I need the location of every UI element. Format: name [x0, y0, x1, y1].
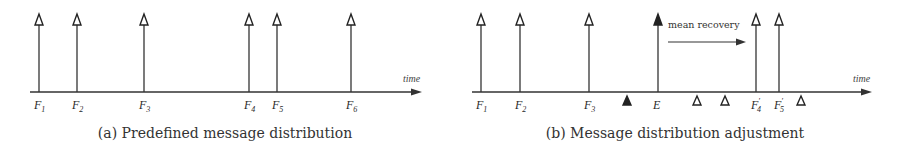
- axis-label-time: time: [403, 73, 421, 84]
- hollow-arrowhead-icon: [477, 14, 485, 25]
- message-label: E: [652, 98, 661, 112]
- filled-triangle-marker-icon: [623, 96, 631, 105]
- axis-arrowhead-icon: [861, 89, 872, 96]
- message-label: F2: [71, 98, 83, 114]
- panel-predefined-distribution: time F1F2F3F4F5F6 (a) Predefined message…: [30, 14, 422, 141]
- message-arrow: F3: [583, 14, 595, 114]
- message-label: F3: [583, 98, 595, 114]
- message-arrow: F′4: [750, 14, 761, 114]
- hollow-arrowhead-icon: [775, 14, 783, 25]
- message-label: F′4: [750, 97, 761, 114]
- message-label: F6: [345, 98, 357, 114]
- hollow-triangle-marker-icon: [693, 96, 701, 105]
- hollow-triangle-marker-icon: [797, 96, 805, 105]
- hollow-arrowhead-icon: [516, 14, 524, 25]
- message-arrow: F5: [271, 14, 283, 114]
- message-arrow: F6: [345, 14, 357, 114]
- message-arrow: F1: [475, 14, 487, 114]
- message-label: F1: [475, 98, 487, 114]
- message-distribution-figure: time F1F2F3F4F5F6 (a) Predefined message…: [0, 0, 902, 153]
- hollow-arrowhead-icon: [273, 14, 281, 25]
- hollow-arrowhead-icon: [35, 14, 43, 25]
- message-arrow: F2: [514, 14, 526, 114]
- axis-arrowhead-icon: [411, 89, 422, 96]
- axis-label-time: time: [853, 73, 871, 84]
- message-arrow: F1: [33, 14, 45, 114]
- hollow-arrowhead-icon: [752, 14, 760, 25]
- message-label: F4: [243, 98, 255, 114]
- hollow-arrowhead-icon: [585, 14, 593, 25]
- hollow-triangle-marker-icon: [721, 96, 729, 105]
- message-label: F3: [138, 98, 150, 114]
- arrow-right-icon: [736, 39, 746, 46]
- message-arrow: F2: [71, 14, 83, 114]
- message-label: F2: [514, 98, 526, 114]
- message-arrow: E: [652, 14, 662, 112]
- message-label: F1: [33, 98, 45, 114]
- message-arrow: F′5: [773, 14, 784, 114]
- caption-b: (b) Message distribution adjustment: [546, 125, 805, 141]
- hollow-arrowhead-icon: [73, 14, 81, 25]
- hollow-arrowhead-icon: [140, 14, 148, 25]
- hollow-arrowhead-icon: [245, 14, 253, 25]
- mean-recovery-label: mean recovery: [668, 19, 740, 30]
- message-arrow: F4: [243, 14, 255, 114]
- filled-arrowhead-icon: [654, 14, 662, 25]
- message-label: F′5: [773, 97, 784, 114]
- hollow-arrowhead-icon: [347, 14, 355, 25]
- caption-a: (a) Predefined message distribution: [98, 125, 352, 141]
- message-arrow: F3: [138, 14, 150, 114]
- message-label: F5: [271, 98, 283, 114]
- panel-distribution-adjustment: time mean recovery F1F2F3EF′4F′5 (b) Mes…: [472, 14, 872, 141]
